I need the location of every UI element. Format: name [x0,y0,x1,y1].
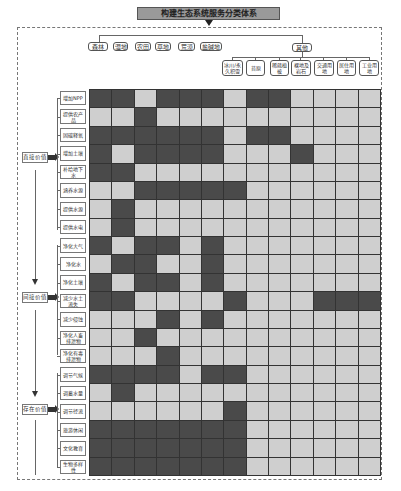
tree-connector [99,35,100,42]
matrix-cell [112,347,133,364]
matrix-cell [90,237,111,254]
matrix-cell [359,127,380,144]
matrix-cell [202,347,223,364]
matrix-cell [314,347,335,364]
matrix-cell [336,366,357,383]
matrix-cell [291,255,312,272]
matrix-cell [112,255,133,272]
matrix-cell [202,108,223,125]
matrix-cell [112,329,133,346]
tree-connector [302,35,303,43]
matrix-cell [157,90,178,107]
matrix-cell [247,182,268,199]
matrix-cell [202,274,223,291]
matrix-cell [112,439,133,456]
matrix-cell [291,219,312,236]
matrix-cell [90,182,111,199]
matrix-cell [90,384,111,401]
matrix-cell [269,366,290,383]
matrix-cell [202,145,223,162]
matrix-cell [269,145,290,162]
service-label: 补给地下水 [60,165,86,179]
service-label: 固碳释氧 [60,128,86,142]
matrix-cell [291,329,312,346]
matrix-cell [336,127,357,144]
matrix-cell [336,164,357,181]
matrix-cell [269,274,290,291]
matrix-cell [224,255,245,272]
matrix-cell [314,274,335,291]
matrix-cell [314,439,335,456]
matrix-cell [291,108,312,125]
land-type-other: 其他 [292,43,312,52]
service-label: 净化土壤 [60,275,86,289]
bracket-tick [57,154,60,155]
flow-line [35,310,36,392]
matrix-cell [90,458,111,475]
matrix-cell [180,274,201,291]
matrix-cell [157,127,178,144]
matrix-cell [135,347,156,364]
matrix-cell [202,311,223,328]
bracket-tick [57,319,60,320]
service-label: 调节径流 [60,404,86,418]
matrix-cell [314,329,335,346]
bracket-line [57,373,58,467]
bracket-tick [57,209,60,210]
matrix-cell [269,164,290,181]
matrix-cell [269,292,290,309]
matrix-cell [359,90,380,107]
matrix-cell [112,90,133,107]
matrix-cell [359,329,380,346]
matrix-cell [291,384,312,401]
matrix-cell [314,458,335,475]
bracket-tick [57,412,60,413]
land-subtype-sparse-vegetation: 稀疏植被 [270,60,289,76]
matrix-cell [157,347,178,364]
matrix-cell [247,329,268,346]
matrix-cell [157,458,178,475]
matrix-cell [90,366,111,383]
service-label: 提供水电 [60,220,86,234]
matrix-cell [157,421,178,438]
matrix-cell [135,274,156,291]
matrix-cell [180,145,201,162]
land-subtype-glacier: 冰川/永久积雪 [222,60,243,76]
service-label: 旅游休闲 [60,423,86,437]
matrix-cell [157,164,178,181]
matrix-cell [135,90,156,107]
diagram-title: 构建生态系统服务分类体系 [137,7,280,20]
bracket-tick [57,246,60,247]
matrix-cell [291,292,312,309]
matrix-cell [336,402,357,419]
matrix-cell [247,219,268,236]
matrix-cell [247,255,268,272]
matrix-cell [224,182,245,199]
matrix-cell [112,182,133,199]
matrix-cell [359,219,380,236]
matrix-cell [180,458,201,475]
bracket-tick [57,172,60,173]
matrix-cell [135,292,156,309]
matrix-cell [90,219,111,236]
matrix-cell [269,237,290,254]
matrix-cell [112,274,133,291]
matrix-cell [112,421,133,438]
matrix-cell [157,311,178,328]
matrix-cell [291,274,312,291]
service-label: 减少水土流失 [60,294,86,308]
land-type-wetland: 湿地 [113,42,128,51]
service-matrix [89,89,381,476]
matrix-cell [180,219,201,236]
matrix-cell [247,108,268,125]
matrix-cell [224,458,245,475]
matrix-cell [224,347,245,364]
matrix-cell [291,311,312,328]
matrix-cell [90,90,111,107]
matrix-cell [157,255,178,272]
matrix-cell [224,421,245,438]
matrix-cell [112,402,133,419]
matrix-cell [359,402,380,419]
matrix-cell [336,182,357,199]
matrix-cell [359,366,380,383]
